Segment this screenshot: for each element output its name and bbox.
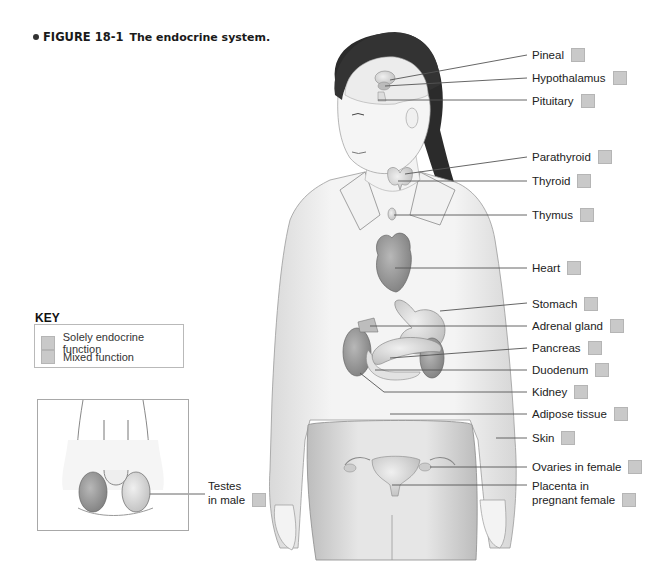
label-text: Skin <box>532 431 554 445</box>
label-text: Pituitary <box>532 94 574 108</box>
ovary-right <box>419 463 431 471</box>
function-swatch <box>622 493 636 507</box>
label-text: Testes in male <box>208 479 245 507</box>
thymus-gland <box>388 208 396 220</box>
label-thyroid: Thyroid <box>532 174 591 188</box>
function-swatch <box>571 48 585 62</box>
label-duodenum: Duodenum <box>532 363 609 377</box>
kidney-left <box>343 328 371 376</box>
function-swatch <box>252 493 266 507</box>
label-text: Kidney <box>532 385 567 399</box>
testes-illustration <box>38 400 188 530</box>
label-testes: Testes in male <box>208 479 266 507</box>
label-text: Heart <box>532 261 560 275</box>
label-text: Adrenal gland <box>532 319 603 333</box>
key-item-label: Mixed function <box>63 351 134 363</box>
mixed-function-swatch <box>41 350 55 364</box>
function-swatch <box>584 297 598 311</box>
label-stomach: Stomach <box>532 297 598 311</box>
function-swatch <box>574 385 588 399</box>
label-skin: Skin <box>532 431 575 445</box>
label-parathyroid: Parathyroid <box>532 150 612 164</box>
function-swatch <box>581 94 595 108</box>
label-pancreas: Pancreas <box>532 341 602 355</box>
function-swatch <box>614 407 628 421</box>
label-text: Duodenum <box>532 363 588 377</box>
left-hand <box>274 505 296 550</box>
key-item-mixed: Mixed function <box>41 350 134 364</box>
function-swatch <box>613 71 627 85</box>
key-title: KEY <box>35 311 60 325</box>
label-text: Pineal <box>532 48 564 62</box>
label-adipose-tissue: Adipose tissue <box>532 407 628 421</box>
solely-endocrine-swatch <box>41 336 55 350</box>
label-text: Stomach <box>532 297 577 311</box>
right-hand <box>480 500 506 548</box>
label-text: Placenta in pregnant female <box>532 479 615 507</box>
function-swatch <box>580 208 594 222</box>
function-swatch <box>561 431 575 445</box>
label-adrenal-gland: Adrenal gland <box>532 319 624 333</box>
label-pituitary: Pituitary <box>532 94 595 108</box>
key-legend: Solely endocrine function Mixed function <box>34 324 184 368</box>
label-thymus: Thymus <box>532 208 594 222</box>
label-text: Parathyroid <box>532 150 591 164</box>
label-placenta: Placenta in pregnant female <box>532 479 636 507</box>
label-pineal: Pineal <box>532 48 585 62</box>
label-text: Hypothalamus <box>532 71 606 85</box>
label-text: Adipose tissue <box>532 407 607 421</box>
label-text: Thymus <box>532 208 573 222</box>
label-text: Ovaries in female <box>532 460 621 474</box>
function-swatch <box>577 174 591 188</box>
label-text: Thyroid <box>532 174 570 188</box>
function-swatch <box>595 363 609 377</box>
label-kidney: Kidney <box>532 385 588 399</box>
function-swatch <box>610 319 624 333</box>
label-heart: Heart <box>532 261 581 275</box>
function-swatch <box>598 150 612 164</box>
label-text: Pancreas <box>532 341 581 355</box>
function-swatch <box>588 341 602 355</box>
function-swatch <box>628 460 642 474</box>
function-swatch <box>567 261 581 275</box>
label-ovaries: Ovaries in female <box>532 460 642 474</box>
male-inset-panel <box>37 399 189 531</box>
ovary-left <box>344 464 356 472</box>
label-hypothalamus: Hypothalamus <box>532 71 627 85</box>
